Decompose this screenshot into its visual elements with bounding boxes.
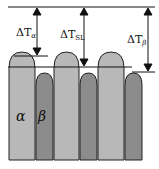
lamellae <box>9 52 142 160</box>
alpha-phase-label: α <box>16 108 26 124</box>
alpha-lamella-1 <box>9 52 35 160</box>
eutectic-growth-diagram: ΔTα ΔTSL ΔTβ α β <box>0 0 159 169</box>
beta-lamella-3 <box>125 73 142 160</box>
beta-lamella-2 <box>80 73 97 160</box>
alpha-lamella-2 <box>54 52 79 160</box>
dt-sl-label: ΔTSL <box>60 28 85 42</box>
beta-phase-label: β <box>37 108 46 124</box>
alpha-lamella-3 <box>98 52 124 160</box>
dt-beta-label: ΔTβ <box>127 33 146 47</box>
dt-alpha-label: ΔTα <box>16 26 36 40</box>
